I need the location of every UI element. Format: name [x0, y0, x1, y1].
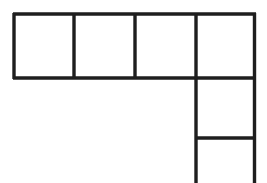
grid-figure-canvas — [0, 0, 267, 183]
grid-figure-svg — [0, 0, 267, 183]
